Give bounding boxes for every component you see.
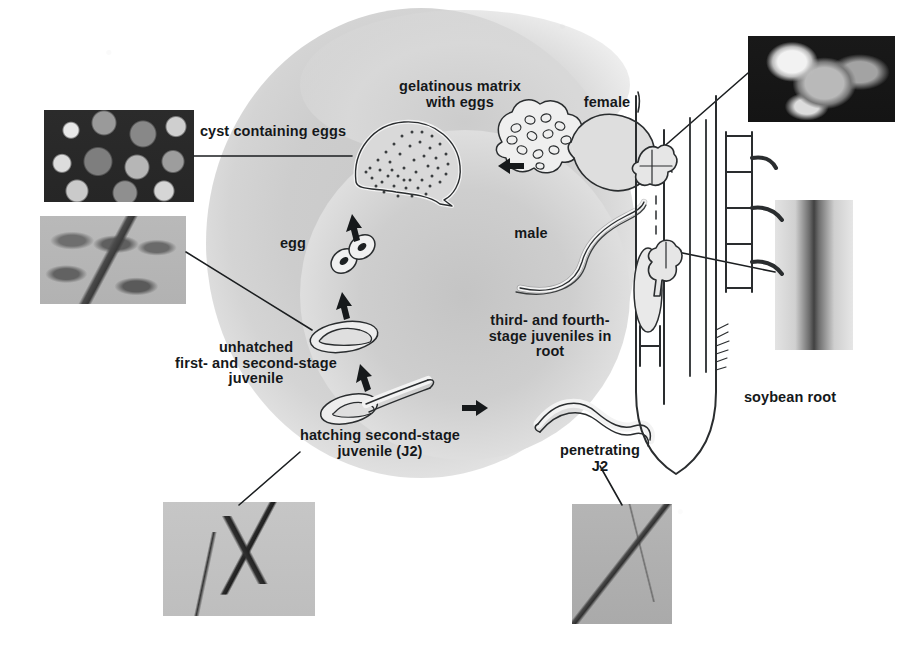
male-nematode-drawing (516, 202, 646, 294)
penetrating-j2-drawing (535, 403, 650, 446)
label-gelatinous-matrix: gelatinous matrix with eggs (370, 79, 550, 110)
arrow-down-icon (356, 364, 372, 392)
syncytium-lower-drawing (634, 240, 682, 332)
label-soybean-root: soybean root (735, 390, 845, 406)
leader-juvenile-photo (239, 452, 300, 505)
label-egg: egg (267, 236, 319, 252)
leader-female-photo (660, 73, 748, 150)
figure-canvas: gelatinous matrix with eggs female cyst … (0, 0, 907, 656)
label-unhatched-juvenile: unhatched first- and second-stage juveni… (156, 340, 356, 387)
label-male: male (500, 226, 562, 242)
label-female: female (562, 95, 652, 111)
label-cyst-containing-eggs: cyst containing eggs (178, 124, 368, 140)
arrow-right-icon (462, 400, 488, 416)
label-third-fourth-stage: third- and fourth- stage juveniles in ro… (460, 313, 640, 360)
label-hatching-j2: hatching second-stage juvenile (J2) (280, 428, 480, 459)
leader-egg-photo (186, 252, 312, 330)
arrow-down-icon (336, 292, 352, 320)
hatching-j2-drawing (317, 380, 433, 430)
cyst-with-eggs-drawing (356, 122, 461, 206)
label-penetrating-j2: penetrating J2 (540, 443, 660, 474)
